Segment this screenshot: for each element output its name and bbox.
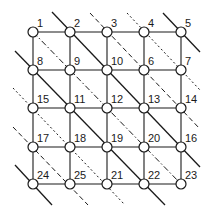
- node-19-label: 19: [111, 132, 123, 144]
- node-14-label: 14: [185, 93, 197, 105]
- node-10-label: 10: [111, 55, 123, 67]
- node-24-label: 24: [37, 169, 49, 181]
- grid-network-diagram: 1234589106715111213141718192016242521222…: [0, 0, 210, 217]
- node-18-label: 18: [74, 132, 86, 144]
- node-8-label: 8: [37, 55, 43, 67]
- node-15-label: 15: [37, 93, 49, 105]
- node-5-label: 5: [185, 17, 191, 29]
- node-9-label: 9: [74, 55, 80, 67]
- node-21-label: 21: [111, 169, 123, 181]
- node-16-label: 16: [185, 132, 197, 144]
- node-4-label: 4: [148, 17, 154, 29]
- node-7-label: 7: [185, 55, 191, 67]
- node-11-label: 11: [74, 93, 85, 105]
- node-23-label: 23: [185, 169, 197, 181]
- node-2-label: 2: [74, 17, 80, 29]
- node-1-label: 1: [37, 17, 43, 29]
- node-6-label: 6: [148, 55, 154, 67]
- node-25-label: 25: [74, 169, 86, 181]
- node-3-label: 3: [111, 17, 117, 29]
- node-22-label: 22: [148, 169, 160, 181]
- node-12-label: 12: [111, 93, 123, 105]
- node-13-label: 13: [148, 93, 160, 105]
- node-17-label: 17: [37, 132, 49, 144]
- node-20-label: 20: [148, 132, 160, 144]
